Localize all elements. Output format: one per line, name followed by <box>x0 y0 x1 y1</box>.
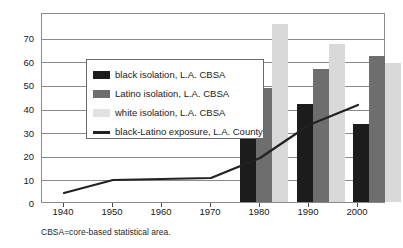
legend-label: black isolation, L.A. CBSA <box>115 70 225 80</box>
legend-swatch-icon <box>93 109 110 117</box>
legend-swatch-icon <box>93 90 110 98</box>
y-tick-label: 30 <box>4 129 34 139</box>
x-tick-label-1940: 1940 <box>38 207 88 217</box>
legend-line-icon <box>93 131 110 134</box>
chart-legend: black isolation, L.A. CBSA Latino isolat… <box>86 59 264 139</box>
legend-label: black-Latino exposure, L.A. County <box>115 127 263 137</box>
legend-swatch-icon <box>93 71 110 79</box>
y-tick-label: 20 <box>4 152 34 162</box>
bar-white-2000 <box>385 63 401 202</box>
y-tick-label: 0 <box>4 199 34 209</box>
chart-figure: 70 60 50 40 30 20 10 0 <box>0 0 403 248</box>
y-tick-label: 40 <box>4 105 34 115</box>
x-tick-label-1950: 1950 <box>87 207 137 217</box>
x-tick-label-1970: 1970 <box>185 207 235 217</box>
chart-caption: CBSA=core-based statistical area. <box>41 227 171 237</box>
x-tick-label-1960: 1960 <box>136 207 186 217</box>
legend-label: Latino isolation, L.A. CBSA <box>115 89 229 99</box>
y-tick-label: 70 <box>4 34 34 44</box>
x-tick-label-1990: 1990 <box>283 207 333 217</box>
x-tick-label-2000: 2000 <box>332 207 382 217</box>
y-tick-label: 60 <box>4 58 34 68</box>
legend-label: white isolation, L.A. CBSA <box>115 108 225 118</box>
x-tick-label-1980: 1980 <box>234 207 284 217</box>
legend-item-black-isolation: black isolation, L.A. CBSA <box>93 65 257 84</box>
plot-area: black isolation, L.A. CBSA Latino isolat… <box>41 13 385 203</box>
legend-item-latino-isolation: Latino isolation, L.A. CBSA <box>93 84 257 103</box>
legend-item-black-latino-exposure: black-Latino exposure, L.A. County <box>93 122 257 141</box>
legend-item-white-isolation: white isolation, L.A. CBSA <box>93 103 257 122</box>
y-tick-label: 50 <box>4 81 34 91</box>
y-tick-label: 10 <box>4 176 34 186</box>
